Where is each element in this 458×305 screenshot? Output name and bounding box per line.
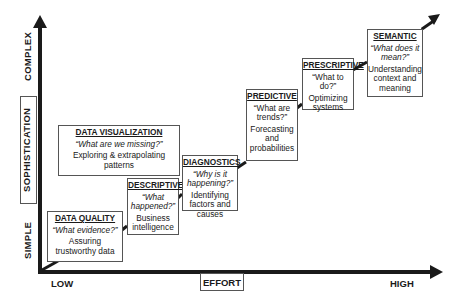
- y-axis-bottom-label: SIMPLE: [22, 218, 36, 262]
- stage-description: Optimizing systems: [303, 94, 353, 113]
- stage-question: “What are trends?”: [247, 104, 297, 123]
- y-axis-arrow-icon: [33, 15, 47, 28]
- stage-title: SEMANTIC: [368, 32, 422, 42]
- stage-description: Exploring & extrapolating patterns: [59, 151, 179, 170]
- stage-title: DESCRIPTIVE: [128, 181, 178, 191]
- stage-question: “What to do?”: [303, 73, 353, 92]
- stage-description: Business intelligence: [128, 214, 178, 233]
- stage-question: “Why is it happening?”: [183, 170, 237, 189]
- stage-diagnostics: DIAGNOSTICS “Why is it happening?” Ident…: [182, 155, 238, 211]
- stage-title: PREDICTIVE: [247, 92, 297, 102]
- stage-title: PRESCRIPTIVE: [303, 61, 353, 71]
- y-axis-top-label: COMPLEX: [22, 30, 36, 82]
- stage-question: “What are we missing?”: [59, 140, 179, 150]
- stage-description: Assuring trustworthy data: [48, 237, 122, 256]
- x-axis-title: EFFORT: [200, 273, 244, 291]
- stage-question: “What happened?”: [128, 193, 178, 212]
- stage-semantic: SEMANTIC “What does it mean?” Understand…: [367, 29, 423, 97]
- stage-data-visualization: DATA VISUALIZATION “What are we missing?…: [58, 125, 180, 176]
- stage-predictive: PREDICTIVE “What are trends?” Forecastin…: [246, 89, 298, 161]
- stage-question: “What does it mean?”: [368, 44, 422, 63]
- x-axis-arrow-icon: [430, 265, 443, 279]
- stage-data-quality: DATA QUALITY “What evidence?” Assuring t…: [47, 211, 123, 262]
- x-axis-right-label: HIGH: [390, 278, 414, 289]
- stage-title: DATA QUALITY: [48, 214, 122, 224]
- stage-title: DIAGNOSTICS: [183, 158, 237, 168]
- stage-question: “What evidence?”: [48, 226, 122, 236]
- stage-title: DATA VISUALIZATION: [59, 128, 179, 138]
- stage-description: Forecasting and probabilities: [247, 125, 297, 154]
- stage-description: Understanding context and meaning: [368, 65, 422, 94]
- stage-descriptive: DESCRIPTIVE “What happened?” Business in…: [127, 178, 179, 235]
- stage-prescriptive: PRESCRIPTIVE “What to do?” Optimizing sy…: [302, 58, 354, 110]
- y-axis-title: SOPHISTICATION: [20, 96, 37, 204]
- stage-description: Identifying factors and causes: [183, 191, 237, 220]
- x-axis-left-label: LOW: [51, 278, 73, 289]
